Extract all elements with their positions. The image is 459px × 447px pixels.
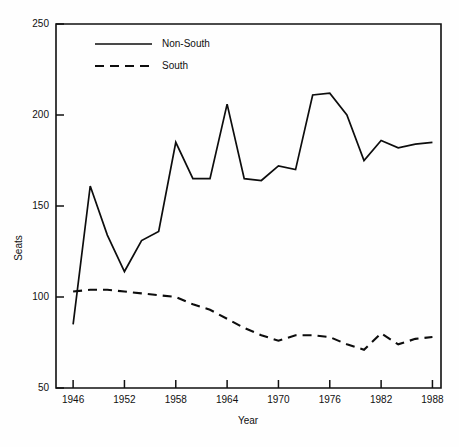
chart-container: 50100150200250 1946195219581964197019761…: [0, 0, 459, 447]
x-tick-label-1976: 1976: [319, 394, 342, 405]
x-tick-label-1988: 1988: [421, 394, 444, 405]
y-tick-label-150: 150: [32, 200, 49, 211]
x-axis-ticks: 19461952195819641970197619821988: [62, 380, 444, 405]
chart-legend: Non-SouthSouth: [95, 38, 210, 71]
x-tick-label-1970: 1970: [267, 394, 290, 405]
legend-label-non-south: Non-South: [162, 38, 210, 49]
plot-border: [56, 24, 441, 388]
data-series-group: [73, 93, 432, 350]
y-axis-title: Seats: [13, 235, 24, 261]
series-line-non-south: [73, 93, 432, 324]
line-chart: 50100150200250 1946195219581964197019761…: [0, 0, 459, 447]
y-tick-label-250: 250: [32, 18, 49, 29]
y-tick-label-50: 50: [38, 382, 50, 393]
x-tick-label-1982: 1982: [370, 394, 393, 405]
legend-label-south: South: [162, 60, 188, 71]
axis-frame: [56, 24, 441, 388]
x-tick-label-1964: 1964: [216, 394, 239, 405]
y-tick-label-100: 100: [32, 291, 49, 302]
x-tick-label-1952: 1952: [113, 394, 136, 405]
y-tick-label-200: 200: [32, 109, 49, 120]
series-line-south: [73, 290, 432, 350]
x-tick-label-1946: 1946: [62, 394, 85, 405]
x-axis-title: Year: [238, 415, 259, 426]
x-tick-label-1958: 1958: [165, 394, 188, 405]
y-axis-ticks: 50100150200250: [32, 18, 64, 393]
